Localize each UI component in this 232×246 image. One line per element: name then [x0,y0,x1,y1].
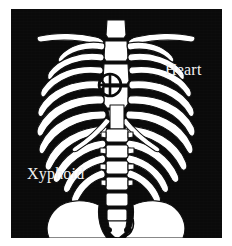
anatomy-panel [11,9,222,238]
label-heart: Heart [165,62,202,78]
thoracic-spine [110,105,124,129]
thorax-skeleton-illustration [11,9,222,238]
figure-root: Heart Xyphoid [0,0,232,246]
sternum-upper-body [104,41,128,61]
manubrium [106,20,126,38]
label-xyphoid: Xyphoid [27,166,84,182]
crosshair-target-marker[interactable] [99,74,121,96]
